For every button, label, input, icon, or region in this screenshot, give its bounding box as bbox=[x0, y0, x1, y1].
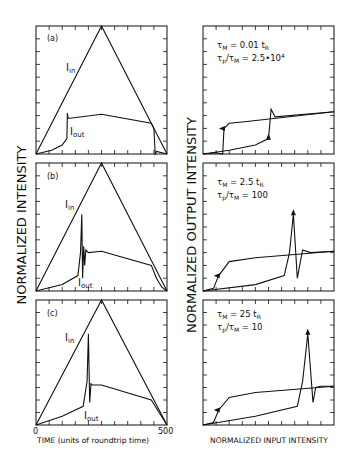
svg-text:Iout: Iout bbox=[70, 126, 85, 139]
direction-arrow-icon bbox=[219, 126, 225, 131]
figure-canvas: NORMALIZED INTENSITY NORMALIZED OUTPUT I… bbox=[0, 0, 354, 467]
curve-c-time-i-out bbox=[36, 334, 167, 425]
curve-c-hyst-up bbox=[203, 334, 334, 425]
curve-c-time-i-in bbox=[36, 300, 167, 425]
panel-b-curve-labels: Iin Iout bbox=[65, 199, 93, 290]
svg-text:τM = 0.01 tR: τM = 0.01 tR bbox=[217, 40, 269, 51]
panel-b-tag: (b) bbox=[47, 172, 58, 181]
panel-a-params: τM = 0.01 tR τp/τM = 2.5•104 bbox=[217, 40, 285, 65]
direction-arrow-icon bbox=[291, 209, 296, 215]
direction-arrow-icon bbox=[214, 273, 220, 278]
svg-text:τp/τM = 10: τp/τM = 10 bbox=[217, 322, 262, 334]
svg-text:τM = 25 tR: τM = 25 tR bbox=[217, 309, 261, 320]
direction-arrow-icon bbox=[305, 329, 310, 335]
x-tick-500: 500 bbox=[158, 427, 173, 436]
x-tick-0: 0 bbox=[33, 427, 38, 436]
svg-text:τp/τM = 100: τp/τM = 100 bbox=[217, 190, 268, 202]
curve-b-hyst-down bbox=[203, 251, 334, 291]
curve-b-time-i-in bbox=[36, 163, 167, 291]
panel-c-params: τM = 25 tR τp/τM = 10 bbox=[217, 309, 262, 334]
curve-a-time-i-in bbox=[36, 26, 167, 154]
right-y-axis-label: NORMALIZED OUTPUT INTENSITY bbox=[184, 117, 199, 333]
panel-a-tag: (a) bbox=[47, 34, 58, 43]
direction-arrow-icon bbox=[266, 134, 271, 140]
left-x-axis-label: TIME (units of roundtrip time) bbox=[36, 436, 149, 445]
panel-a-curve-labels: Iin Iout bbox=[66, 62, 85, 139]
svg-text:τp/τM = 2.5•104: τp/τM = 2.5•104 bbox=[217, 52, 285, 65]
panel-b-time-frame bbox=[36, 163, 167, 291]
direction-arrow-icon bbox=[214, 408, 220, 413]
svg-text:Iout: Iout bbox=[84, 410, 99, 423]
svg-text:Iout: Iout bbox=[78, 277, 93, 290]
panel-a-time-frame bbox=[36, 26, 167, 154]
svg-text:Iin: Iin bbox=[65, 332, 74, 345]
left-y-axis-label: NORMALIZED INTENSITY bbox=[14, 146, 29, 305]
curve-a-time-i-out bbox=[36, 113, 167, 154]
svg-text:Iin: Iin bbox=[66, 62, 75, 75]
panel-c-time-frame bbox=[36, 300, 167, 425]
panel-c-tag: (c) bbox=[47, 309, 58, 318]
svg-text:τM = 2.5 tR: τM = 2.5 tR bbox=[217, 177, 264, 188]
panel-c-curve-labels: Iin Iout bbox=[65, 332, 99, 423]
svg-text:Iin: Iin bbox=[65, 199, 74, 212]
panel-b-params: τM = 2.5 tR τp/τM = 100 bbox=[217, 177, 268, 202]
right-x-axis-label: NORMALIZED INPUT INTENSITY bbox=[210, 436, 328, 445]
